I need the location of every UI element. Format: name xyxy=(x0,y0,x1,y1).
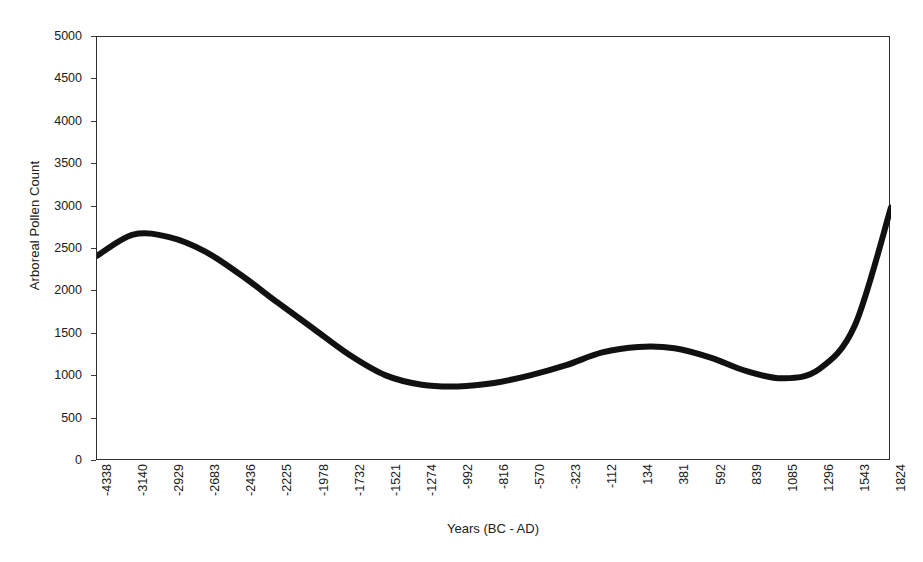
y-tick-label: 2500 xyxy=(2,242,82,254)
x-tick-label: -570 xyxy=(534,464,547,516)
y-tick-label: 3500 xyxy=(2,157,82,169)
x-tick-label: -1978 xyxy=(318,464,331,516)
x-tick-label: 134 xyxy=(642,464,655,516)
x-tick-label: 592 xyxy=(715,464,728,516)
pollen-count-line-chart: Arboreal Pollen Count 050010001500200025… xyxy=(0,0,923,562)
x-tick-label: -2929 xyxy=(173,464,186,516)
pollen-count-curve xyxy=(97,207,891,386)
x-tick-label: -1732 xyxy=(354,464,367,516)
y-tick-mark xyxy=(91,460,96,461)
y-tick-label: 1000 xyxy=(2,369,82,381)
y-tick-label: 1500 xyxy=(2,327,82,339)
x-axis-tick-labels: -4338-3140-2929-2683-2436-2225-1978-1732… xyxy=(96,464,890,524)
x-tick-label: 1296 xyxy=(823,464,836,516)
plot-area xyxy=(96,36,890,460)
x-tick-label: 1543 xyxy=(859,464,872,516)
x-tick-label: -112 xyxy=(606,464,619,516)
x-tick-label: -2683 xyxy=(209,464,222,516)
x-tick-label: -1521 xyxy=(390,464,403,516)
x-tick-label: -816 xyxy=(498,464,511,516)
x-tick-label: -1274 xyxy=(426,464,439,516)
x-tick-label: -2225 xyxy=(281,464,294,516)
y-tick-label: 4000 xyxy=(2,115,82,127)
x-tick-label: 381 xyxy=(678,464,691,516)
x-axis-title: Years (BC - AD) xyxy=(96,521,890,536)
y-tick-label: 500 xyxy=(2,412,82,424)
x-tick-label: 1824 xyxy=(895,464,908,516)
y-tick-label: 3000 xyxy=(2,200,82,212)
x-tick-label: -323 xyxy=(570,464,583,516)
x-tick-label: -2436 xyxy=(245,464,258,516)
x-tick-label: -3140 xyxy=(137,464,150,516)
x-tick-label: 839 xyxy=(751,464,764,516)
y-axis-tick-labels: 0500100015002000250030003500400045005000 xyxy=(0,0,90,562)
y-tick-label: 5000 xyxy=(2,30,82,42)
x-tick-label: -4338 xyxy=(101,464,114,516)
y-tick-label: 4500 xyxy=(2,72,82,84)
y-tick-label: 0 xyxy=(2,454,82,466)
pollen-curve-svg xyxy=(97,37,891,461)
x-tick-label: -992 xyxy=(462,464,475,516)
y-tick-label: 2000 xyxy=(2,284,82,296)
x-tick-label: 1085 xyxy=(787,464,800,516)
